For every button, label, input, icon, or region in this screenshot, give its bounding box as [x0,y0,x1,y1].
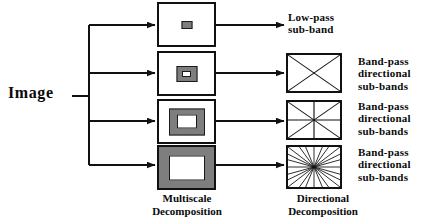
pyramid-directional-filter-bank-diagram: Image [0,0,437,222]
multiscale-level-3-region [169,108,205,135]
directional-8-direction-box [286,100,342,140]
four-lines-icon [288,102,340,138]
radial-fan-icon [288,147,340,187]
multiscale-level-4-core [169,155,205,180]
input-image-label: Image [8,84,54,102]
multiscale-level-1-region [181,21,192,29]
directional-4-direction-box [286,53,342,93]
multiscale-level-2-region [176,66,197,82]
caption-directional-decomposition: Directional Decomposition [258,192,388,218]
multiscale-level-2-box [157,51,216,96]
output-label-band-pass-2: Band-pass directional sub-bands [358,100,411,137]
output-label-band-pass-3: Band-pass directional sub-bands [358,146,411,183]
caption-multiscale-decomposition: Multiscale Decomposition [128,192,246,218]
multiscale-level-4-box [157,145,216,190]
multiscale-level-3-box [157,99,216,144]
two-diagonals-icon [288,55,340,91]
multiscale-level-3-core [177,115,197,129]
output-label-low-pass: Low-pass sub-band [288,11,334,36]
output-label-band-pass-1: Band-pass directional sub-bands [358,55,411,92]
directional-16-direction-box [286,145,342,189]
multiscale-level-2-core [182,71,191,77]
multiscale-level-1-box [157,2,216,47]
